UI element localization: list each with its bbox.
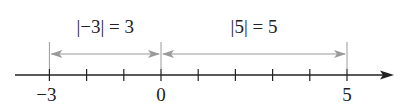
number-line-diagram: −305 |−3| = 3|5| = 5: [0, 0, 402, 112]
distance-arrows: |−3| = 3|5| = 5: [49, 16, 347, 69]
absolute-value-label: |5| = 5: [231, 16, 278, 37]
absolute-value-label: |−3| = 3: [76, 16, 134, 37]
tick-label: 0: [156, 84, 166, 105]
number-line-axis: [15, 71, 394, 80]
tick-label: −3: [36, 84, 56, 105]
tick-labels: −305: [36, 84, 351, 105]
tick-label: 5: [342, 84, 352, 105]
